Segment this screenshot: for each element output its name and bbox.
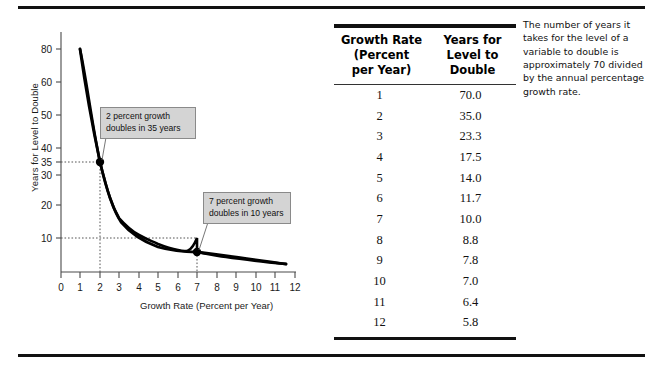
chart-plot-area [0,14,330,324]
x-axis-ticks [61,272,295,278]
callout-2-percent: 2 percent growth doubles in 35 years [100,107,196,139]
table-bottom-rule [334,337,516,340]
x-tick-label-3: 3 [111,282,127,293]
y-axis-ticks [56,49,61,238]
cell-growth-rate: 7 [334,209,425,230]
column-header-years-line2: Level to [429,48,516,63]
explanatory-note: The number of years it takes for the lev… [523,18,655,98]
cell-growth-rate: 1 [334,85,425,106]
cell-growth-rate: 6 [334,188,425,209]
column-header-growth-rate-line2: (Percent [334,48,429,63]
callout-2-percent-line1: 2 percent growth [106,111,190,123]
column-header-growth-rate-line1: Growth Rate [334,33,429,48]
cell-years: 7.8 [425,250,516,271]
cell-years: 8.8 [425,230,516,251]
cell-growth-rate: 4 [334,147,425,168]
table-row: 7 10.0 [334,209,516,230]
cell-years: 14.0 [425,168,516,189]
table-row: 8 8.8 [334,230,516,251]
cell-years: 23.3 [425,126,516,147]
table-row: 12 5.8 [334,312,516,333]
table: Growth Rate (Percent per Year) Years for… [334,28,516,83]
y-axis-title: Years for Level to Double [29,58,40,218]
x-tick-label-10: 10 [248,282,264,293]
cell-growth-rate: 3 [334,126,425,147]
table-row: 10 7.0 [334,271,516,292]
table-row: 1 70.0 [334,85,516,106]
doubling-time-curve-smooth [80,49,286,264]
cell-growth-rate: 11 [334,292,425,313]
cell-growth-rate: 5 [334,168,425,189]
x-tick-label-4: 4 [131,282,147,293]
figure-bottom-rule [18,354,645,357]
cell-growth-rate: 9 [334,250,425,271]
table-row: 5 14.0 [334,168,516,189]
table-row: 2 35.0 [334,106,516,127]
cell-growth-rate: 12 [334,312,425,333]
cell-years: 7.0 [425,271,516,292]
doubling-time-curve [80,49,286,264]
x-tick-label-0: 0 [53,282,69,293]
cell-years: 6.4 [425,292,516,313]
table-body-wrapper: 1 70.0 2 35.0 3 23.3 4 17.5 5 14.0 6 11.… [334,85,516,333]
cell-years: 70.0 [425,85,516,106]
table-row: 11 6.4 [334,292,516,313]
cell-growth-rate: 8 [334,230,425,251]
x-tick-label-12: 12 [287,282,303,293]
x-tick-label-7: 7 [189,282,205,293]
doubling-time-table: Growth Rate (Percent per Year) Years for… [334,24,516,340]
cell-growth-rate: 2 [334,106,425,127]
doubling-time-chart: 80 60 50 40 35 30 20 10 0 1 2 3 4 5 6 7 … [0,14,330,324]
table-row: 6 11.7 [334,188,516,209]
callout-2-percent-line2: doubles in 35 years [106,123,190,135]
x-axis-title: Growth Rate (Percent per Year) [140,300,273,311]
table-body: 1 70.0 2 35.0 3 23.3 4 17.5 5 14.0 6 11.… [334,85,516,333]
callout-7-percent-line1: 7 percent growth [209,196,285,208]
table-row: 9 7.8 [334,250,516,271]
x-tick-label-8: 8 [209,282,225,293]
guide-lines-2-percent [61,162,100,272]
column-header-growth-rate-line3: per Year) [334,63,429,78]
x-tick-label-1: 1 [72,282,88,293]
cell-years: 5.8 [425,312,516,333]
cell-years: 17.5 [425,147,516,168]
table-head: Growth Rate (Percent per Year) Years for… [334,28,516,83]
data-point-2-percent [96,158,104,166]
y-tick-label-10: 10 [30,233,52,244]
data-point-7-percent [193,248,201,256]
column-header-years-line1: Years for [429,33,516,48]
guide-lines-7-percent [61,238,197,272]
cell-growth-rate: 10 [334,271,425,292]
x-tick-label-5: 5 [150,282,166,293]
table-header-row: Growth Rate (Percent per Year) Years for… [334,28,516,83]
column-header-growth-rate: Growth Rate (Percent per Year) [334,28,429,83]
figure-top-rule [18,6,645,9]
column-header-years-to-double: Years for Level to Double [429,28,516,83]
table-row: 3 23.3 [334,126,516,147]
cell-years: 35.0 [425,106,516,127]
column-header-years-line3: Double [429,63,516,78]
x-tick-label-9: 9 [228,282,244,293]
callout-7-percent: 7 percent growth doubles in 10 years [203,192,291,224]
table-row: 4 17.5 [334,147,516,168]
x-tick-label-11: 11 [267,282,283,293]
callout-7-percent-line2: doubles in 10 years [209,208,285,220]
y-tick-label-80: 80 [30,44,52,55]
cell-years: 11.7 [425,188,516,209]
x-tick-label-6: 6 [170,282,186,293]
x-tick-label-2: 2 [92,282,108,293]
cell-years: 10.0 [425,209,516,230]
